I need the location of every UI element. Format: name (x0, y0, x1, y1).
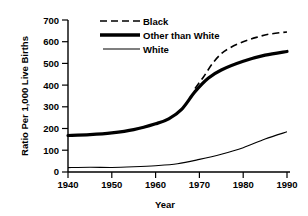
chart-legend: Black Other than White White (100, 16, 220, 55)
y-tick-label-600: 600 (43, 36, 59, 47)
y-tick-label-100: 100 (43, 145, 59, 156)
line-chart-plot: 700 600 500 400 300 200 100 0 1940 1950 … (0, 0, 308, 216)
x-tick-label-1950: 1950 (101, 179, 122, 190)
y-axis-title: Ratio Per 1,000 Live Births (19, 36, 30, 156)
x-tick-label-1940: 1940 (57, 179, 78, 190)
x-axis-title: Year (155, 199, 175, 210)
x-axis-ticks (68, 172, 287, 178)
x-tick-label-1990: 1990 (276, 179, 297, 190)
x-tick-label-1960: 1960 (145, 179, 166, 190)
y-tick-label-0: 0 (54, 166, 59, 177)
legend-label-white: White (143, 44, 169, 55)
series-line-other-than-white (68, 51, 287, 135)
y-tick-label-400: 400 (43, 80, 59, 91)
y-tick-label-700: 700 (43, 15, 59, 26)
x-tick-label-1980: 1980 (233, 179, 254, 190)
legend-label-other-than-white: Other than White (143, 30, 220, 41)
y-axis-ticks (62, 20, 68, 172)
legend-label-black: Black (143, 16, 169, 27)
series-line-white (68, 132, 287, 168)
y-tick-label-200: 200 (43, 123, 59, 134)
y-tick-label-500: 500 (43, 58, 59, 69)
x-tick-label-1970: 1970 (189, 179, 210, 190)
chart-container: 700 600 500 400 300 200 100 0 1940 1950 … (0, 0, 308, 216)
y-tick-label-300: 300 (43, 101, 59, 112)
